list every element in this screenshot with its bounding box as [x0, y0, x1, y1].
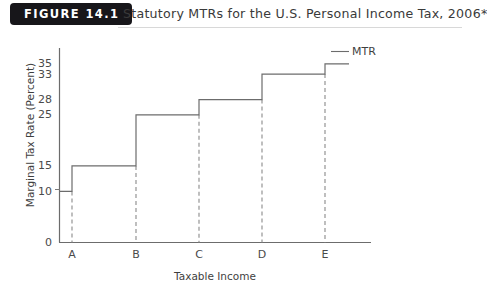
y-tick-label: 0: [22, 237, 52, 248]
mtr-step-line-group: [60, 64, 350, 192]
header-divider: [118, 27, 462, 28]
figure-number-badge: FIGURE 14.1: [10, 3, 132, 25]
x-axis-title: Taxable Income: [59, 270, 371, 282]
x-tick-label: E: [313, 249, 337, 260]
figure-header: FIGURE 14.1 Statutory MTRs for the U.S. …: [0, 0, 462, 34]
figure-title: Statutory MTRs for the U.S. Personal Inc…: [123, 6, 487, 21]
chart-plot-area: Marginal Tax Rate (Percent) Taxable Inco…: [0, 34, 462, 297]
y-tick-label: 33: [22, 69, 52, 80]
x-tick-label: B: [124, 249, 148, 260]
y-tick-label: 15: [22, 160, 52, 171]
y-tick-label: 28: [22, 94, 52, 105]
x-tick-label: D: [250, 249, 274, 260]
mtr-step-line: [60, 64, 350, 192]
y-tick-label: 25: [22, 109, 52, 120]
x-tick-label: C: [187, 249, 211, 260]
mtr-series-label: MTR: [352, 46, 376, 57]
x-tick-label: A: [60, 249, 84, 260]
y-tick-label: 10: [22, 186, 52, 197]
